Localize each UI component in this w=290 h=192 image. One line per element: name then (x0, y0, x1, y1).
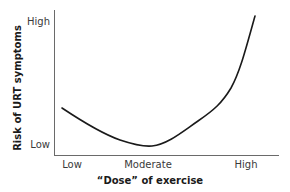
y-tick-high: High (27, 16, 50, 27)
j-curve-chart: High Low Low Moderate High “Dose” of exe… (0, 0, 290, 192)
x-tick-low: Low (62, 159, 82, 170)
x-tick-moderate: Moderate (124, 159, 172, 170)
x-tick-high: High (235, 159, 258, 170)
risk-curve (62, 16, 255, 146)
y-tick-low: Low (30, 139, 50, 150)
y-axis-title: Risk of URT symptoms (12, 25, 23, 151)
x-axis-title: “Dose” of exercise (97, 175, 203, 186)
